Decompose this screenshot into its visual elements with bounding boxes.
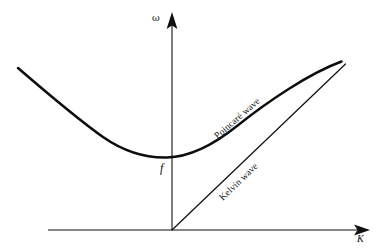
y-axis-group (167, 12, 178, 230)
poincare-wave-curve (18, 62, 342, 158)
x-axis-label: K (357, 234, 364, 244)
dispersion-diagram-figure: ω K f Poincaré wave Kelvin wave (0, 0, 384, 252)
x-axis-group (48, 225, 370, 236)
y-axis-label: ω (152, 13, 160, 23)
inertial-frequency-label: f (160, 162, 163, 174)
figure-canvas (0, 0, 384, 252)
kelvin-wave-line (172, 64, 346, 230)
